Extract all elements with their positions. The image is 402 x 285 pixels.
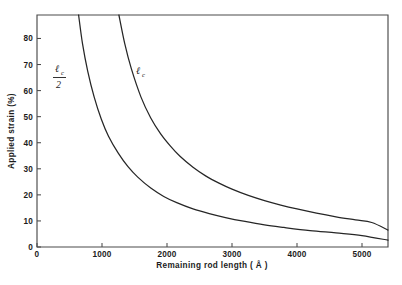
annotation-lc-subscript: c — [142, 71, 145, 78]
y-tick-label: 70 — [23, 61, 33, 70]
y-tick-label: 0 — [28, 243, 33, 252]
strain-vs-rod-length-chart: 010002000300040005000 01020304050607080 … — [0, 0, 402, 285]
y-tick-label: 30 — [23, 165, 33, 174]
y-tick-label: 20 — [23, 191, 33, 200]
x-tick-label: 0 — [35, 250, 40, 259]
annotation-lc: ℓ c — [136, 65, 145, 78]
x-tick-label: 2000 — [157, 250, 176, 259]
x-axis-ticks — [37, 243, 362, 247]
x-tick-label: 1000 — [92, 250, 111, 259]
y-axis-title: Applied strain (%) — [7, 93, 16, 169]
y-tick-label: 10 — [23, 217, 33, 226]
data-curve-lc-over-2 — [79, 15, 388, 240]
annotation-lc-over-2: ℓ c 2 — [53, 63, 66, 90]
y-axis-ticks — [37, 38, 41, 247]
y-axis-tick-labels: 01020304050607080 — [23, 34, 33, 252]
y-tick-label: 60 — [23, 87, 33, 96]
figure-container: 010002000300040005000 01020304050607080 … — [0, 0, 402, 285]
plot-frame — [37, 15, 388, 247]
x-tick-label: 5000 — [352, 250, 371, 259]
annotation-lc-over-2-numerator: ℓ — [55, 63, 59, 74]
annotation-lc-over-2-denominator: 2 — [56, 79, 61, 90]
annotation-lc-over-2-numerator-subscript: c — [61, 69, 64, 76]
y-tick-label: 50 — [23, 113, 33, 122]
x-axis-tick-labels: 010002000300040005000 — [35, 250, 372, 259]
x-axis-title: Remaining rod length ( Å ) — [156, 260, 267, 270]
x-tick-label: 4000 — [287, 250, 306, 259]
y-tick-label: 80 — [23, 34, 33, 43]
data-curve-lc — [119, 15, 388, 230]
data-curves — [79, 15, 388, 240]
annotation-lc-symbol: ℓ — [136, 65, 140, 76]
y-tick-label: 40 — [23, 139, 33, 148]
x-tick-label: 3000 — [222, 250, 241, 259]
